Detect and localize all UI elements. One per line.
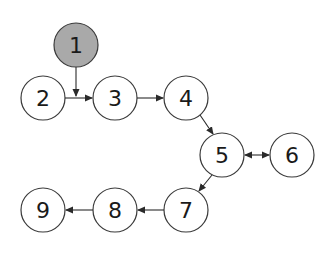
node-label: 4 bbox=[179, 86, 193, 111]
node-9: 9 bbox=[21, 188, 65, 232]
node-3: 3 bbox=[93, 76, 137, 120]
node-4: 4 bbox=[164, 76, 208, 120]
graph-svg: 1 2 3 4 5 6 7 8 bbox=[0, 0, 333, 278]
node-label: 6 bbox=[285, 143, 299, 168]
node-label: 2 bbox=[36, 86, 50, 111]
node-label: 7 bbox=[179, 198, 193, 223]
node-label: 5 bbox=[215, 143, 229, 168]
node-5: 5 bbox=[200, 133, 244, 177]
diagram-canvas: 1 2 3 4 5 6 7 8 bbox=[0, 0, 333, 278]
node-6: 6 bbox=[270, 133, 314, 177]
node-7: 7 bbox=[164, 188, 208, 232]
node-label: 8 bbox=[108, 198, 122, 223]
node-8: 8 bbox=[93, 188, 137, 232]
node-label: 1 bbox=[69, 33, 83, 58]
node-label: 9 bbox=[36, 198, 50, 223]
edge-4-5 bbox=[200, 115, 213, 134]
node-1: 1 bbox=[54, 23, 98, 67]
edge-5-7 bbox=[199, 175, 212, 191]
node-label: 3 bbox=[108, 86, 122, 111]
node-2: 2 bbox=[21, 76, 65, 120]
